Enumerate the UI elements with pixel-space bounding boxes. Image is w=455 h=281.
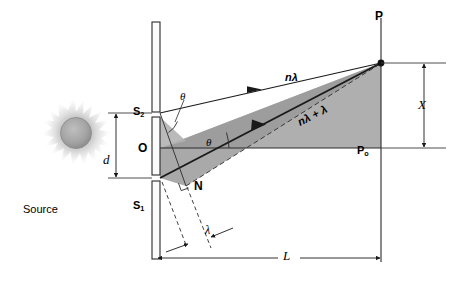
screen-point-p-label: P xyxy=(375,10,383,22)
angle-theta-origin-label: θ xyxy=(206,137,211,148)
path-upper-label: nλ xyxy=(285,72,298,83)
distance-L-label: L xyxy=(283,249,290,262)
origin-o-label: O xyxy=(138,142,147,154)
wavelength-lambda-label: λ xyxy=(205,224,210,236)
foot-normal-n-label: N xyxy=(194,180,203,192)
screen-center-p0-label: Po xyxy=(357,145,369,157)
slit-s1-label: S1 xyxy=(133,200,144,212)
diagram-canvas: Source S2 S1 O N P Po d L X nλ nλ + λ λ … xyxy=(0,0,455,281)
diagram-svg xyxy=(0,0,455,281)
shaded-beam-region xyxy=(160,63,381,186)
source-label: Source xyxy=(23,204,58,215)
slit-barrier-icon xyxy=(152,22,160,259)
slit-s2-label: S2 xyxy=(133,106,144,118)
separation-d-label: d xyxy=(103,153,110,166)
dimension-X xyxy=(381,63,446,148)
fringe-offset-X-label: X xyxy=(418,98,426,111)
angle-theta-slit-label: θ xyxy=(180,91,185,102)
